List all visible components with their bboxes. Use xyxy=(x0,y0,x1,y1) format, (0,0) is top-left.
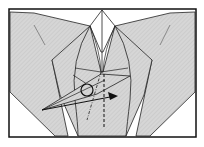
origami-diagram xyxy=(0,0,204,147)
